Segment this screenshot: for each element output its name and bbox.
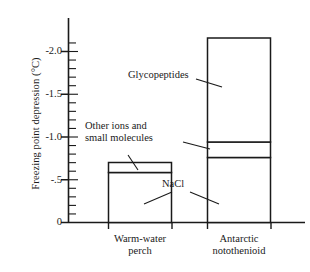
annotation-nacl: NaCl [162,178,184,190]
y-major-ticks [61,52,68,223]
annotation-other-ions: Other ions and small molecules [85,120,153,143]
x-category-label-1-line2: perch [100,245,180,257]
chart-figure: Freezing point depression (°C) -2.0 -1.5… [0,0,310,272]
leader-line-other-ions-right [183,142,210,149]
annotation-glycopeptides: Glycopeptides [128,69,189,81]
x-category-label-warm-water-perch: Warm-water perch [100,233,180,256]
bar-antarctic-notothenioid[interactable] [208,38,271,223]
chart-canvas [0,0,310,272]
annotation-other-ions-line2: small molecules [85,132,153,144]
x-category-label-antarctic-notothenioid: Antarctic notothenioid [199,233,279,256]
bar-segment-glycopeptides-notothenioid[interactable] [208,38,271,142]
bar-segment-other-ions-notothenioid[interactable] [208,142,271,158]
x-category-label-1-line1: Warm-water [100,233,180,245]
y-minor-ticks [69,43,78,214]
annotation-other-ions-line1: Other ions and [85,120,153,132]
bar-segment-other-ions-perch[interactable] [109,163,172,173]
x-category-label-2-line2: notothenioid [199,245,279,257]
x-category-label-2-line1: Antarctic [199,233,279,245]
bar-segment-nacl-notothenioid[interactable] [208,158,271,223]
bar-warm-water-perch[interactable] [109,163,172,223]
